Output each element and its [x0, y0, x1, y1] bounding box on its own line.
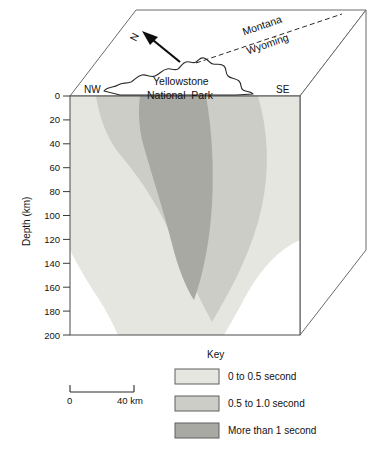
- depth-tick-60: 60: [34, 163, 60, 173]
- depth-tick-120: 120: [34, 235, 60, 245]
- depth-tick-200: 200: [34, 331, 60, 341]
- depth-tick-180: 180: [34, 307, 60, 317]
- key-swatch-0: [175, 369, 219, 384]
- depth-tick-20: 20: [34, 115, 60, 125]
- depth-tick-160: 160: [34, 283, 60, 293]
- scale-bar-start-label: 0: [67, 396, 72, 406]
- depth-tick-80: 80: [34, 187, 60, 197]
- depth-tick-0: 0: [34, 91, 60, 101]
- diagram-canvas: [0, 0, 374, 450]
- park-label-line2: National Park: [147, 90, 213, 101]
- scale-bar-graphic: [70, 385, 134, 392]
- depth-axis-ticks: [63, 96, 70, 335]
- key-swatch-1: [175, 396, 219, 411]
- key-label-0: 0 to 0.5 second: [228, 372, 296, 382]
- corner-label-se: SE: [276, 85, 289, 95]
- scale-bar-end-label: 40 km: [117, 396, 143, 406]
- depth-tick-100: 100: [34, 211, 60, 221]
- corner-label-nw: NW: [84, 85, 101, 95]
- yellowstone-block-diagram: 0 20 40 60 80 100 120 140 160 180 200 De…: [0, 0, 374, 450]
- park-label-line1: Yellowstone: [153, 76, 209, 87]
- key-label-2: More than 1 second: [228, 426, 316, 436]
- key-title: Key: [207, 350, 224, 360]
- depth-tick-40: 40: [34, 139, 60, 149]
- depth-axis-title: Depth (km): [22, 197, 32, 246]
- key-label-1: 0.5 to 1.0 second: [228, 399, 305, 409]
- depth-tick-140: 140: [34, 259, 60, 269]
- key-swatch-2: [175, 423, 219, 438]
